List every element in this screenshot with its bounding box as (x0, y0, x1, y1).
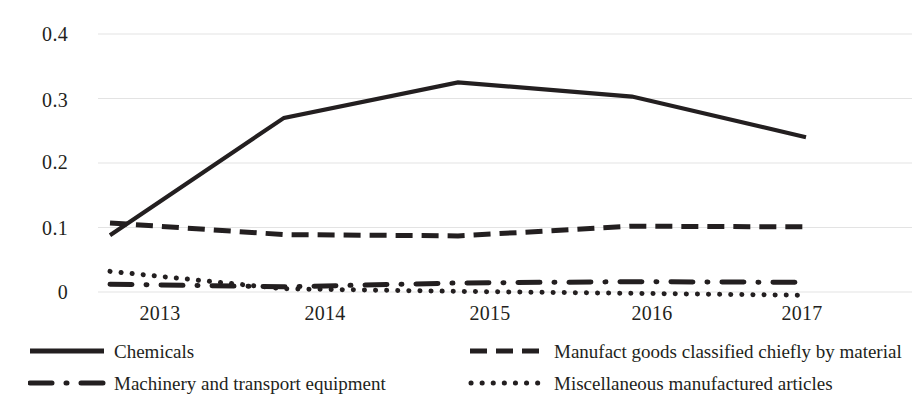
legend-swatch-dashed-icon (468, 342, 546, 360)
legend-item-manufact-goods[interactable]: Manufact goods classified chiefly by mat… (468, 336, 902, 366)
legend-label-machinery: Machinery and transport equipment (114, 374, 386, 393)
legend-item-chemicals[interactable]: Chemicals (28, 336, 194, 366)
legend-swatch-solid-icon (28, 342, 106, 360)
y-tick-label-3: 0.1 (8, 218, 68, 238)
x-tick-label-2017: 2017 (742, 303, 862, 323)
series-line (110, 223, 806, 236)
legend-swatch-dotted-icon (468, 374, 546, 392)
legend-label-miscellaneous: Miscellaneous manufactured articles (554, 374, 833, 393)
x-tick-label-2014: 2014 (265, 303, 385, 323)
y-tick-label-4: 0 (8, 282, 68, 302)
series-line (110, 82, 806, 235)
legend-swatch-dashdot-icon (28, 374, 106, 392)
series-line (110, 282, 806, 287)
plot-svg (0, 0, 924, 330)
y-tick-label-1: 0.3 (8, 90, 68, 110)
legend-label-manufact-goods: Manufact goods classified chiefly by mat… (554, 342, 902, 361)
legend-item-miscellaneous[interactable]: Miscellaneous manufactured articles (468, 368, 833, 398)
y-tick-label-0: 0.4 (8, 24, 68, 44)
legend-item-machinery[interactable]: Machinery and transport equipment (28, 368, 386, 398)
x-tick-label-2013: 2013 (100, 303, 220, 323)
series-lines (110, 82, 806, 295)
legend-label-chemicals: Chemicals (114, 342, 194, 361)
x-tick-label-2016: 2016 (592, 303, 712, 323)
plot-area: 0.4 0.3 0.2 0.1 0 2013 2014 2015 2016 20… (0, 0, 924, 330)
x-tick-label-2015: 2015 (430, 303, 550, 323)
legend: Chemicals Machinery and transport equipm… (0, 334, 924, 406)
line-chart: 0.4 0.3 0.2 0.1 0 2013 2014 2015 2016 20… (0, 0, 924, 406)
y-tick-label-2: 0.2 (8, 152, 68, 172)
